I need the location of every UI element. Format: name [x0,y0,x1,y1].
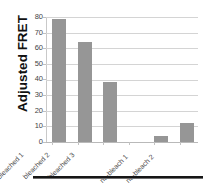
gridline-0-baseline [46,142,198,143]
bar-no-bleach-2 [180,123,194,142]
bar-bleached-3 [103,82,117,142]
y-tick-label: 0 [25,138,43,146]
gridline-80 [46,17,198,18]
y-tick-label: 60 [25,44,43,52]
y-tick-label: 20 [25,107,43,115]
gridline-20 [46,111,198,112]
y-tick-label: 70 [25,29,43,37]
bottom-rule-shadow [33,178,203,179]
y-axis-tick-labels: 80 70 60 50 40 30 20 10 0 [22,17,43,142]
gridline-30 [46,95,198,96]
y-tick-label: 30 [25,91,43,99]
bar-bleached-2 [78,42,92,142]
gridline-70 [46,33,198,34]
y-tick-label: 10 [25,122,43,130]
bar-no-bleach-1 [154,136,168,142]
x-tick-mark [154,142,155,145]
x-tick-mark [52,142,53,145]
x-tick-mark [180,142,181,145]
gridline-10 [46,126,198,127]
x-tick-label-bleached-1: bleached 1 [0,151,25,180]
x-tick-mark [78,142,79,145]
x-tick-mark [103,142,104,145]
bar-bleached-1 [52,19,66,142]
y-tick-label: 80 [25,13,43,21]
bar-chart-figure: Adjusted FRET 80 70 60 50 40 30 20 10 0 [0,0,208,189]
y-tick-label: 40 [25,75,43,83]
x-tick-mark [129,142,130,145]
gridline-40 [46,80,198,81]
gridline-60 [46,48,198,49]
plot-area [46,17,198,142]
y-tick-label: 50 [25,60,43,68]
gridline-50 [46,64,198,65]
